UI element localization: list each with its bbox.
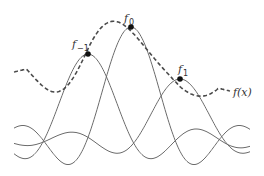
basis-curve-2 [14,79,250,153]
sample-labels: f−1f0f1 [71,12,188,78]
sample-label-f_1: f1 [177,63,188,78]
interpolant-label: f(x) [232,86,252,99]
interpolant-dashed-curve [14,21,230,96]
sinc-interpolation-diagram: f−1f0f1 f(x) [0,0,264,176]
basis-curve-0 [14,54,250,159]
sample-label-f_minus_1: f−1 [71,38,89,53]
basis-curve-1 [14,27,250,165]
basis-function-curves [14,27,250,165]
sample-label-f_0: f0 [123,12,134,27]
sample-point-f_1 [177,76,183,82]
